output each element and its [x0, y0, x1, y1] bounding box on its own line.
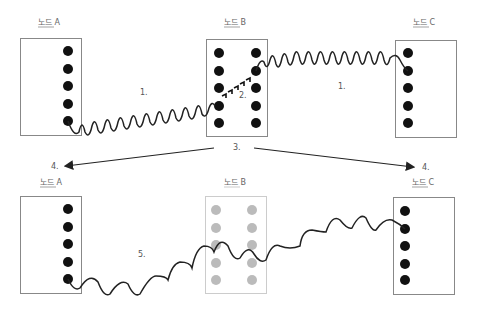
top-node-b	[207, 40, 268, 137]
step-1-label-bc: 1.	[338, 82, 346, 91]
top-node-c	[396, 41, 457, 138]
arrow-left-icon	[66, 148, 214, 166]
step-5-label: 5.	[138, 250, 146, 259]
bottom-node-b-label: 노드 B	[224, 178, 246, 187]
step-4-label-a: 4.	[51, 162, 59, 171]
bottom-node-a-label: 노드 A	[40, 178, 63, 187]
bottom-node-b-inactive	[206, 197, 267, 294]
step-2-label: 2.	[239, 91, 247, 100]
top-node-a-label: 노드 A	[38, 18, 61, 27]
step-1-label-ab: 1.	[140, 88, 148, 97]
bottom-node-c	[394, 198, 455, 295]
link-wave-b-c	[256, 52, 408, 71]
top-node-b-label: 노드 B	[224, 18, 246, 27]
bottom-node-a	[21, 197, 82, 294]
top-node-a	[21, 39, 82, 136]
step-4-label-c: 4.	[422, 163, 430, 172]
step-3-label: 3.	[233, 143, 241, 152]
diagram-canvas: 노드 A 노드 B 2. 노드 C	[0, 0, 477, 309]
arrow-right-icon	[254, 148, 413, 167]
bottom-node-c-label: 노드 C	[412, 178, 435, 187]
top-node-c-label: 노드 C	[413, 18, 436, 27]
link-wave-a-b	[68, 103, 215, 134]
